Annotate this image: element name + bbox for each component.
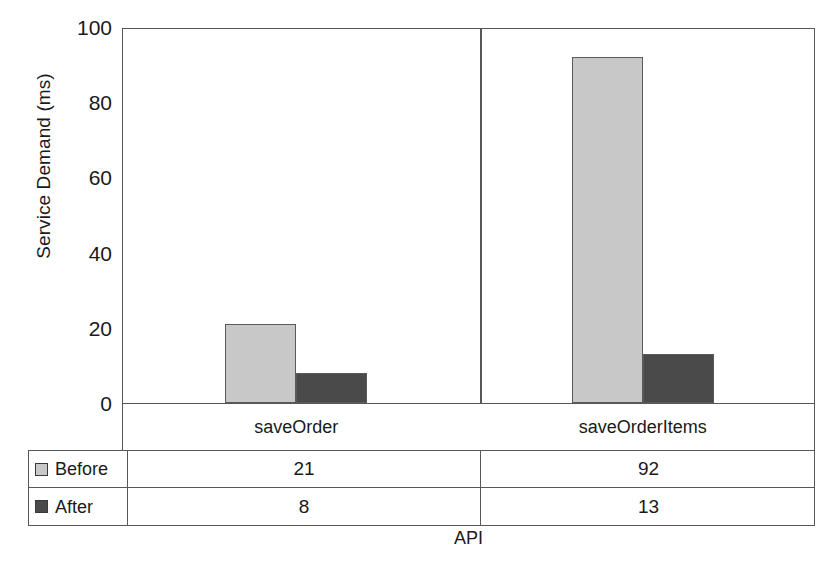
category-labels: saveOrdersaveOrderItems (122, 404, 815, 450)
table-cell-before-saveOrder: 21 (128, 451, 480, 487)
bar-after-saveOrderItems (643, 354, 714, 403)
plot-area (122, 28, 815, 404)
legend-cell-before: Before (29, 451, 128, 487)
table-row: Before 21 92 (29, 451, 814, 488)
category-label-saveOrder: saveOrder (123, 404, 470, 450)
legend-swatch-before (35, 463, 48, 476)
bar-before-saveOrderItems (572, 57, 643, 403)
y-tick-label: 60 (40, 165, 112, 191)
y-tick-label: 20 (40, 316, 112, 342)
bar-after-saveOrder (296, 373, 367, 403)
panel-divider (480, 29, 482, 403)
data-table: Before 21 92 After 8 13 (28, 450, 815, 526)
x-axis-title: API (122, 528, 815, 549)
table-cell-before-saveOrderItems: 92 (480, 451, 816, 487)
table-row: After 8 13 (29, 488, 814, 525)
legend-cell-after: After (29, 488, 128, 525)
legend-swatch-after (35, 500, 48, 513)
legend-label-before: Before (55, 460, 108, 478)
y-tick-label: 40 (40, 241, 112, 267)
y-tick-label: 100 (40, 15, 112, 41)
legend-label-after: After (55, 498, 93, 516)
category-label-saveOrderItems: saveOrderItems (470, 404, 817, 450)
table-cell-after-saveOrder: 8 (128, 488, 480, 525)
y-tick-label: 0 (40, 391, 112, 417)
table-cell-after-saveOrderItems: 13 (480, 488, 816, 525)
y-tick-label: 80 (40, 90, 112, 116)
bar-chart-figure: Service Demand (ms) 020406080100 saveOrd… (0, 0, 838, 569)
bar-before-saveOrder (225, 324, 296, 403)
